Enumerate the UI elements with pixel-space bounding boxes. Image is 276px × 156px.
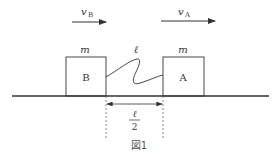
mass-b-label: m: [80, 44, 89, 55]
gap-numerator: ℓ: [133, 109, 137, 119]
mass-a-label: m: [178, 44, 187, 55]
velocity-a-label: v A: [178, 6, 191, 19]
block-a-label: A: [178, 72, 187, 83]
collision-diagram: v B v A m m ℓ B A ℓ 2 図1: [0, 0, 276, 156]
figure-caption: 図1: [131, 140, 147, 151]
block-b-label: B: [82, 72, 89, 83]
spring: [106, 59, 163, 84]
gap-denominator: 2: [132, 122, 138, 132]
spring-length-label: ℓ: [134, 44, 138, 55]
velocity-b-label: v B: [81, 6, 93, 19]
gap-fraction: ℓ 2: [129, 109, 140, 132]
velocity-b-subscript: B: [88, 11, 93, 19]
velocity-b-symbol: v: [81, 6, 87, 17]
velocity-a-symbol: v: [178, 6, 184, 17]
velocity-a-subscript: A: [184, 11, 191, 19]
